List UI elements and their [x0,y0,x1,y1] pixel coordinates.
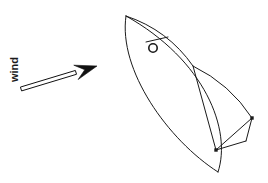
sheet-line-0 [216,118,252,150]
diagram-canvas [0,0,268,183]
clew-fitting-marker [250,116,253,119]
sailboat-wind-diagram: wind [0,0,268,183]
jib-sail-curve [126,16,193,66]
wind-arrow-head-icon [74,65,97,79]
traveller-fitting-marker [214,148,217,151]
hull-group [125,16,221,172]
mainsail-curve [193,66,252,118]
wind-arrow-group [20,65,97,91]
boom-line [146,37,168,42]
wind-arrow-shaft [20,70,76,90]
sheet-line-2 [246,118,252,141]
sails-group [126,16,252,150]
hull-outline [125,16,221,172]
sheet-lines-group [216,118,252,150]
mast-icon [149,44,157,52]
mast-group [146,37,168,52]
wind-label: wind [4,42,24,82]
